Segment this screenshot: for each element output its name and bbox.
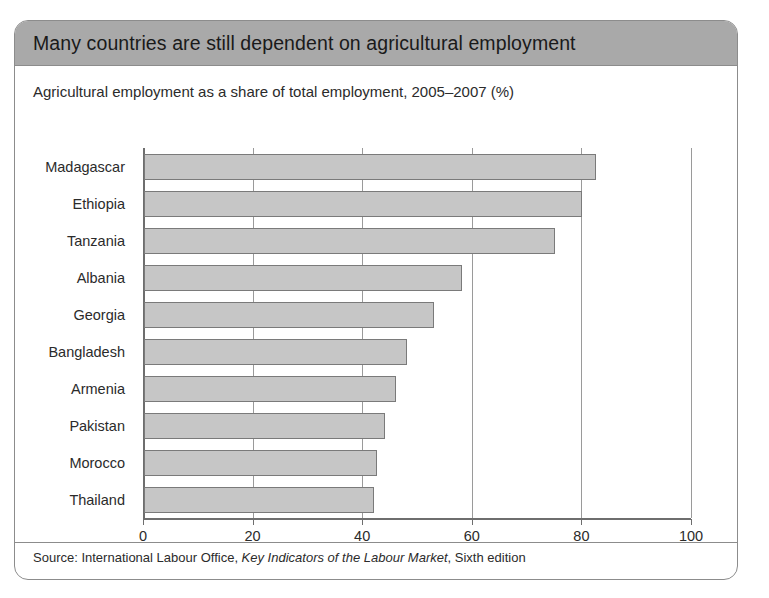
category-label: Albania: [77, 265, 125, 291]
source-note: Source: International Labour Office, Key…: [33, 550, 526, 565]
bar: [144, 450, 377, 476]
bar: [144, 191, 582, 217]
source-suffix: , Sixth edition: [448, 550, 526, 565]
bar: [144, 265, 462, 291]
x-axis-tick: [472, 519, 473, 525]
source-publication-title: Key Indicators of the Labour Market: [242, 550, 448, 565]
bar: [144, 413, 385, 439]
category-label: Tanzania: [67, 228, 125, 254]
category-axis-labels: MadagascarEthiopiaTanzaniaAlbaniaGeorgia…: [15, 148, 135, 518]
category-label: Ethiopia: [73, 191, 125, 217]
chart-page: Many countries are still dependent on ag…: [0, 0, 769, 598]
card-header-band: Many countries are still dependent on ag…: [15, 21, 737, 66]
x-axis-line: [143, 518, 691, 520]
x-axis-tick: [143, 519, 144, 525]
bar: [144, 302, 434, 328]
bar: [144, 228, 555, 254]
bar-chart: MadagascarEthiopiaTanzaniaAlbaniaGeorgia…: [15, 121, 738, 536]
category-label: Armenia: [71, 376, 125, 402]
page-title: Many countries are still dependent on ag…: [33, 32, 576, 55]
plot-area: 020406080100: [143, 148, 691, 518]
category-label: Madagascar: [45, 154, 125, 180]
category-label: Bangladesh: [48, 339, 125, 365]
bar: [144, 154, 596, 180]
figure-card: Many countries are still dependent on ag…: [14, 20, 738, 580]
x-axis-tick: [362, 519, 363, 525]
x-axis-tick: [581, 519, 582, 525]
bar: [144, 376, 396, 402]
category-label: Thailand: [69, 487, 125, 513]
source-divider: [15, 542, 738, 543]
category-label: Georgia: [73, 302, 125, 328]
chart-subtitle: Agricultural employment as a share of to…: [33, 83, 514, 100]
source-prefix: Source: International Labour Office,: [33, 550, 242, 565]
x-axis-tick: [691, 519, 692, 525]
category-label: Pakistan: [69, 413, 125, 439]
bar: [144, 339, 407, 365]
bar: [144, 487, 374, 513]
x-axis-tick: [253, 519, 254, 525]
x-gridline: [691, 148, 692, 518]
category-label: Morocco: [69, 450, 125, 476]
